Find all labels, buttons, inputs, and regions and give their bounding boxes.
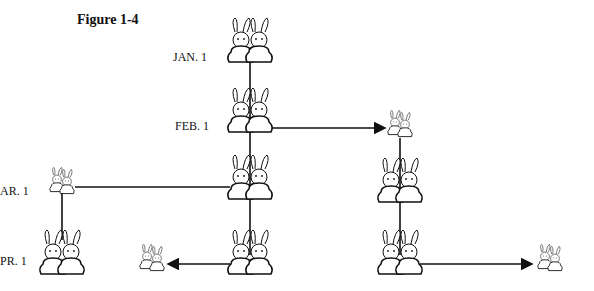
apr-grown-pair-left [40,230,84,274]
rabbit-diagram [0,0,594,291]
jan-adult-pair [228,18,272,62]
mar-baby-pair [50,167,74,193]
apr-baby-pair-left [140,244,164,270]
feb-baby-pair [388,110,412,136]
apr-baby-pair-right [538,244,562,270]
